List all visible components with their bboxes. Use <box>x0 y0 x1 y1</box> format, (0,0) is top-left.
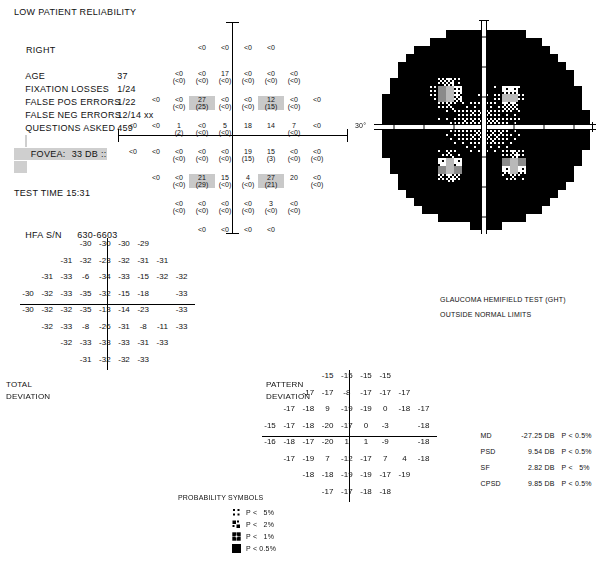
pattern-deviation-value: -15 <box>374 372 396 380</box>
pattern-deviation-value: -9 <box>374 438 396 446</box>
p5-icon <box>229 508 243 517</box>
index-psd-value: 9.54 DB <box>507 448 555 455</box>
index-psd-name: PSD <box>481 448 507 455</box>
threshold-axis-tick-left <box>118 129 119 142</box>
total-deviation-value: -29 <box>132 240 154 248</box>
field-false-neg-label: FALSE NEG ERRORS <box>25 109 117 122</box>
threshold-point: <0(<0) <box>281 70 307 84</box>
index-cpsd-value: 9.85 DB <box>507 480 555 487</box>
field-false-pos-label: FALSE POS ERRORS <box>25 96 117 109</box>
threshold-point: <0(<0) <box>281 200 307 214</box>
total-deviation-value: -18 <box>132 290 154 298</box>
total-deviation-value: -23 <box>132 306 154 314</box>
legend-entry-p5: P < 5% <box>178 506 298 518</box>
total-deviation-title-line1: TOTAL <box>6 381 32 389</box>
threshold-point: <0 <box>304 122 330 129</box>
index-md: MD-27.25 DBP < 0.5% <box>472 425 602 441</box>
p05-icon <box>229 544 243 553</box>
threshold-value: <0 <box>304 174 330 181</box>
index-sf-name: SF <box>481 464 507 471</box>
pattern-deviation-value: -17 <box>393 389 415 397</box>
threshold-value: <0 <box>304 96 330 103</box>
threshold-point: <0(<0) <box>304 174 330 188</box>
total-deviation-value: -33 <box>151 339 173 347</box>
field-fovea-label: FOVEA: <box>31 148 66 161</box>
pattern-deviation-value: -19 <box>393 471 415 479</box>
pattern-deviation-value: -17 <box>413 405 435 413</box>
pattern-deviation-value: -18 <box>413 455 435 463</box>
pattern-deviation-value: -18 <box>413 422 435 430</box>
total-deviation-value: -33 <box>171 306 193 314</box>
legend-text-p5: P < 5% <box>246 509 298 516</box>
index-md-prob: P < 0.5% <box>562 432 592 439</box>
index-sf-value: 2.82 DB <box>507 464 555 471</box>
threshold-retest-value: (<0) <box>281 207 307 214</box>
threshold-point: <0 <box>258 44 284 51</box>
threshold-retest-value: (<0) <box>304 155 330 162</box>
field-fixation-losses-label: FIXATION LOSSES <box>25 83 117 96</box>
p2-icon <box>229 520 243 529</box>
legend-entry-p2: P < 2% <box>178 518 298 530</box>
total-deviation-title-line2: DEVIATION <box>6 393 50 401</box>
threshold-point: <0 <box>258 226 284 233</box>
p1-icon <box>229 532 243 541</box>
threshold-value: <0 <box>304 148 330 155</box>
probability-legend-title: PROBABILITY SYMBOLS <box>178 494 298 501</box>
ght-result: OUTSIDE NORMAL LIMITS <box>440 311 531 318</box>
threshold-value: <0 <box>258 226 284 233</box>
pattern-deviation-title-line1: PATTERN <box>266 381 304 389</box>
pattern-deviation-numeric-grid: -15-15-15-15-17-17-8-17-17-17-17-189-19-… <box>262 370 437 502</box>
index-md-name: MD <box>481 432 507 439</box>
legend-text-p1: P < 1% <box>246 533 298 540</box>
threshold-axis-tick-bottom <box>226 233 239 234</box>
total-deviation-value: -33 <box>171 323 193 331</box>
index-md-value: -27.25 DB <box>507 432 555 439</box>
probability-symbols-legend: PROBABILITY SYMBOLS P < 5% P < 2% P < 1%… <box>178 494 298 554</box>
index-sf-prob: P < 5% <box>562 464 590 471</box>
global-indices-block: MD-27.25 DBP < 0.5% PSD9.54 DBP < 0.5% S… <box>472 425 602 489</box>
total-deviation-value: -32 <box>171 273 193 281</box>
total-deviation-value: -33 <box>132 356 154 364</box>
total-deviation-value: -31 <box>151 257 173 265</box>
threshold-point: <0 <box>304 96 330 103</box>
index-psd-prob: P < 0.5% <box>562 448 592 455</box>
index-sf: SF2.82 DBP < 5% <box>472 457 602 473</box>
grayscale-degree-label: 30° <box>355 122 366 129</box>
threshold-point: <0(<0) <box>304 148 330 162</box>
threshold-grid: <0<0<0<0<0(<0)<0(<0)17(<0)<0(<0)<0(<0)<0… <box>118 22 348 234</box>
legend-entry-p05: P < 0.5% <box>178 542 298 554</box>
legend-text-p05: P < 0.5% <box>246 545 298 552</box>
threshold-retest-value: (<0) <box>281 129 307 136</box>
threshold-value: <0 <box>281 70 307 77</box>
field-fovea-value: 33 DB :: <box>72 149 107 159</box>
threshold-axis-tick-right <box>347 129 348 142</box>
threshold-retest-value: (<0) <box>212 129 238 136</box>
legend-entry-p1: P < 1% <box>178 530 298 542</box>
threshold-retest-value: (<0) <box>281 77 307 84</box>
index-cpsd-prob: P < 0.5% <box>562 480 592 487</box>
pattern-deviation-title-line2: DEVIATION <box>266 393 310 401</box>
threshold-value: <0 <box>281 200 307 207</box>
threshold-retest-value: (21) <box>258 181 284 188</box>
index-cpsd: CPSD9.85 DBP < 0.5% <box>472 473 602 489</box>
pattern-deviation-value: -18 <box>413 438 435 446</box>
threshold-retest-value: (<0) <box>281 103 307 110</box>
field-fovea: FOVEA:33 DB :: <box>14 122 107 135</box>
pattern-deviation-value: -3 <box>374 422 396 430</box>
pattern-deviation-value: -18 <box>374 488 396 496</box>
grayscale-map <box>366 14 602 240</box>
threshold-value: <0 <box>258 44 284 51</box>
index-cpsd-name: CPSD <box>481 480 507 487</box>
reliability-warning: LOW PATIENT RELIABILITY <box>14 8 136 17</box>
ght-title: GLAUCOMA HEMIFIELD TEST (GHT) <box>440 296 566 303</box>
threshold-retest-value: (<0) <box>304 181 330 188</box>
threshold-axis-tick-top <box>226 22 239 23</box>
threshold-value: <0 <box>304 122 330 129</box>
index-psd: PSD9.54 DBP < 0.5% <box>472 441 602 457</box>
total-deviation-numeric-grid: -30-30-30-29-31-32-23-32-31-31-31-33-6-3… <box>20 238 195 370</box>
field-age-label: AGE <box>25 70 117 83</box>
legend-text-p2: P < 2% <box>246 521 298 528</box>
total-deviation-value: -33 <box>171 290 193 298</box>
